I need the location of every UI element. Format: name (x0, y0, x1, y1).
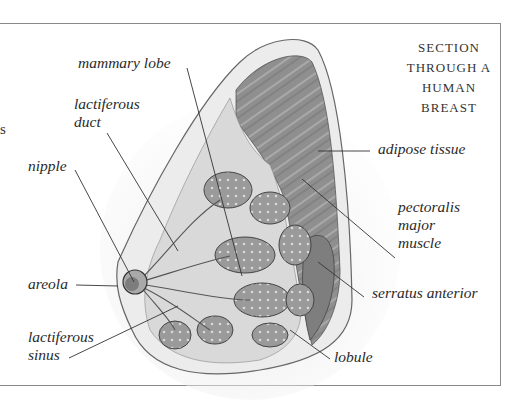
label-lactiferous-duct-line2: duct (74, 113, 140, 131)
label-serratus-anterior: serratus anterior (372, 284, 478, 302)
label-lactiferous-sinus-line1: lactiferous (28, 328, 94, 346)
label-lactiferous-sinus-line2: sinus (28, 346, 94, 364)
diagram-title: SECTION THROUGH A HUMAN BREAST (394, 38, 504, 118)
title-line-3: HUMAN BREAST (394, 78, 504, 118)
title-line-1: SECTION (394, 38, 504, 58)
label-adipose-tissue: adipose tissue (378, 140, 465, 158)
label-pectoralis-line3: muscle (398, 234, 460, 252)
title-line-2: THROUGH A (394, 58, 504, 78)
label-pectoralis-major-muscle: pectoralis major muscle (398, 198, 460, 252)
label-lobule: lobule (334, 348, 373, 366)
label-pectoralis-line1: pectoralis (398, 198, 460, 216)
label-lactiferous-duct-line1: lactiferous (74, 95, 140, 113)
label-nipple: nipple (28, 157, 67, 175)
label-pectoralis-line2: major (398, 216, 460, 234)
cropped-glyph: s (0, 121, 6, 138)
label-areola: areola (28, 275, 68, 293)
label-lactiferous-duct: lactiferous duct (74, 95, 140, 131)
label-mammary-lobe: mammary lobe (78, 54, 171, 72)
label-lactiferous-sinus: lactiferous sinus (28, 328, 94, 364)
